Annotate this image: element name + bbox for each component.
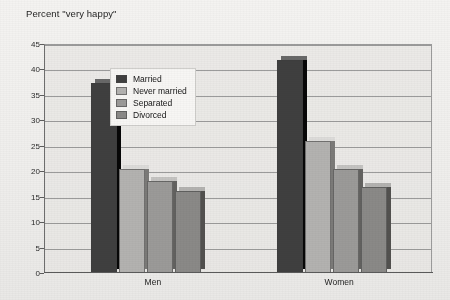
legend-item-divorced: Divorced bbox=[116, 109, 187, 121]
bar-married-women bbox=[277, 60, 303, 273]
y-axis-tick-label: 10 bbox=[4, 218, 40, 227]
legend-item-label: Divorced bbox=[133, 109, 167, 121]
bar-face bbox=[333, 169, 359, 273]
legend-swatch-icon bbox=[116, 99, 127, 107]
y-axis-tick-label: 40 bbox=[4, 65, 40, 74]
chart-title: Percent "very happy" bbox=[26, 8, 117, 19]
gridline bbox=[45, 70, 431, 71]
x-axis-group-label-men: Men bbox=[145, 277, 162, 287]
plot-area bbox=[44, 44, 432, 273]
legend-item-separated: Separated bbox=[116, 97, 187, 109]
bar-face bbox=[277, 60, 303, 273]
bar-divorced-women bbox=[361, 187, 387, 274]
bar-never-married-women bbox=[305, 141, 331, 273]
gridline bbox=[45, 45, 431, 46]
bar-face bbox=[175, 191, 201, 273]
bar-face bbox=[147, 181, 173, 273]
y-axis: 454035302520151050 bbox=[0, 44, 40, 273]
x-axis-line bbox=[44, 272, 433, 273]
y-axis-tick-label: 45 bbox=[4, 40, 40, 49]
y-axis-tick-label: 0 bbox=[4, 269, 40, 278]
legend-swatch-icon bbox=[116, 87, 127, 95]
bar-side bbox=[387, 183, 391, 270]
legend-item-label: Separated bbox=[133, 97, 172, 109]
footnote bbox=[14, 295, 84, 300]
chart-legend: MarriedNever marriedSeparatedDivorced bbox=[110, 68, 196, 126]
bar-face bbox=[305, 141, 331, 273]
legend-swatch-icon bbox=[116, 75, 127, 83]
y-axis-tick-label: 20 bbox=[4, 167, 40, 176]
legend-item-label: Never married bbox=[133, 85, 187, 97]
legend-item-label: Married bbox=[133, 73, 162, 85]
y-axis-tick-label: 15 bbox=[4, 192, 40, 201]
legend-item-never-married: Never married bbox=[116, 85, 187, 97]
chart-figure: Percent "very happy" 454035302520151050 … bbox=[0, 0, 450, 300]
legend-swatch-icon bbox=[116, 111, 127, 119]
bar-never-married-men bbox=[119, 169, 145, 273]
x-axis-group-label-women: Women bbox=[325, 277, 354, 287]
legend-item-married: Married bbox=[116, 73, 187, 85]
bar-face bbox=[361, 187, 387, 274]
bar-separated-women bbox=[333, 169, 359, 273]
bar-separated-men bbox=[147, 181, 173, 273]
y-axis-tick-label: 30 bbox=[4, 116, 40, 125]
y-axis-tick-mark bbox=[40, 273, 44, 274]
y-axis-tick-label: 25 bbox=[4, 141, 40, 150]
bar-divorced-men bbox=[175, 191, 201, 273]
y-axis-tick-label: 35 bbox=[4, 90, 40, 99]
bar-side bbox=[201, 187, 205, 269]
bar-face bbox=[119, 169, 145, 273]
y-axis-tick-label: 5 bbox=[4, 243, 40, 252]
